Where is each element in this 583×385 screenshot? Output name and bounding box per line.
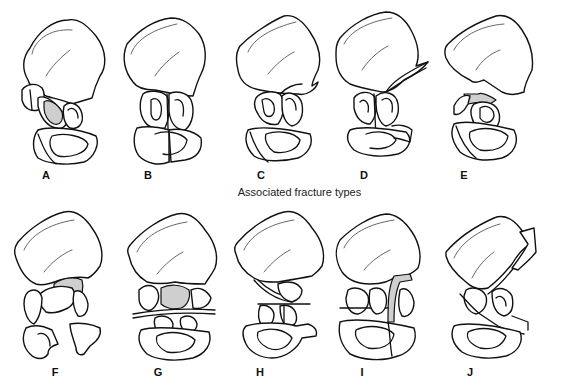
figure-label-j: J <box>460 366 480 378</box>
figure-b-acetabulum-drawing <box>115 12 210 167</box>
top-heading-cropped <box>0 0 583 2</box>
figure-f-acetabulum-drawing <box>12 208 112 368</box>
figure-label-i: I <box>352 366 372 378</box>
figure-a-acetabulum-drawing <box>8 10 103 165</box>
figure-label-g: G <box>148 366 168 378</box>
figure-label-f: F <box>45 366 65 378</box>
figure-label-c: C <box>251 169 271 181</box>
figure-c-acetabulum-drawing <box>232 12 327 167</box>
figure-j-acetabulum-drawing <box>440 208 540 368</box>
figure-label-d: D <box>354 169 374 181</box>
section-heading-associated-fracture-types: Associated fracture types <box>8 186 583 198</box>
figure-d-acetabulum-drawing <box>330 8 430 168</box>
figure-h-acetabulum-drawing <box>232 208 332 368</box>
figure-i-acetabulum-drawing <box>330 210 430 370</box>
figure-g-acetabulum-drawing <box>125 210 225 370</box>
figure-e-acetabulum-drawing <box>440 8 540 168</box>
figure-label-e: E <box>454 169 474 181</box>
figure-label-b: B <box>138 169 158 181</box>
figure-label-a: A <box>36 169 56 181</box>
figure-label-h: H <box>250 366 270 378</box>
